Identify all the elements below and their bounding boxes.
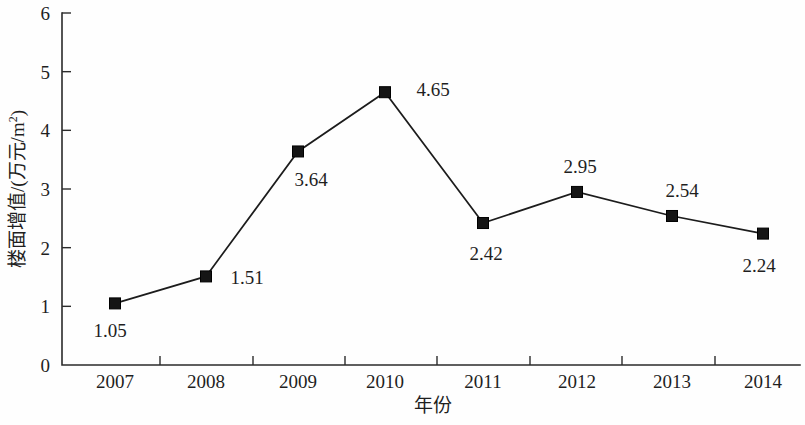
y-axis-tick-label: 6 <box>41 3 51 24</box>
y-axis-title-main: 楼面增值/(万元/m <box>7 122 29 268</box>
y-axis-tick-label: 2 <box>41 238 51 259</box>
data-value-label: 2.54 <box>665 180 699 201</box>
x-axis-tick-labels: 20072008200920102011201220132014 <box>96 371 783 392</box>
x-axis-title: 年份 <box>414 395 452 416</box>
y-axis-tick-label: 1 <box>41 296 51 317</box>
data-value-label: 1.51 <box>230 267 263 288</box>
x-axis-tick-label: 2010 <box>366 371 404 392</box>
x-axis-tick-label: 2009 <box>279 371 317 392</box>
y-axis-tick-label: 3 <box>41 179 51 200</box>
x-axis-tick-label: 2013 <box>653 371 691 392</box>
x-axis-tick-label: 2011 <box>464 371 501 392</box>
y-axis-title: 楼面增值/(万元/m2) <box>6 110 29 268</box>
x-axis-tick-label: 2007 <box>96 371 134 392</box>
data-value-label: 4.65 <box>416 79 449 100</box>
data-value-label: 2.24 <box>742 255 776 276</box>
data-point-marker <box>293 146 304 157</box>
y-axis-title-tail: ) <box>7 110 29 116</box>
x-axis-tick-marks <box>160 356 715 365</box>
x-axis-tick-label: 2008 <box>187 371 225 392</box>
y-axis-tick-labels: 0123456 <box>41 3 51 376</box>
data-point-marker <box>110 298 121 309</box>
data-point-marker <box>667 210 678 221</box>
data-value-label: 3.64 <box>294 169 328 190</box>
data-value-label: 1.05 <box>93 320 126 341</box>
data-point-marker <box>572 186 583 197</box>
data-value-label: 2.95 <box>563 156 596 177</box>
data-point-marker <box>201 271 212 282</box>
data-point-marker <box>758 228 769 239</box>
chart-canvas: 0123456 20072008200920102011201220132014… <box>0 0 805 425</box>
x-axis-tick-label: 2012 <box>558 371 596 392</box>
x-axis-tick-label: 2014 <box>744 371 783 392</box>
data-value-label: 2.42 <box>469 243 502 264</box>
y-axis-tick-marks <box>62 13 71 306</box>
data-point-marker <box>478 218 489 229</box>
y-axis-tick-label: 4 <box>41 120 51 141</box>
line-chart-figure: 0123456 20072008200920102011201220132014… <box>0 0 805 425</box>
y-axis-tick-label: 0 <box>41 355 51 376</box>
svg-text:楼面增值/(万元/m2): 楼面增值/(万元/m2) <box>6 110 29 268</box>
data-point-marker <box>380 87 391 98</box>
y-axis-tick-label: 5 <box>41 62 51 83</box>
